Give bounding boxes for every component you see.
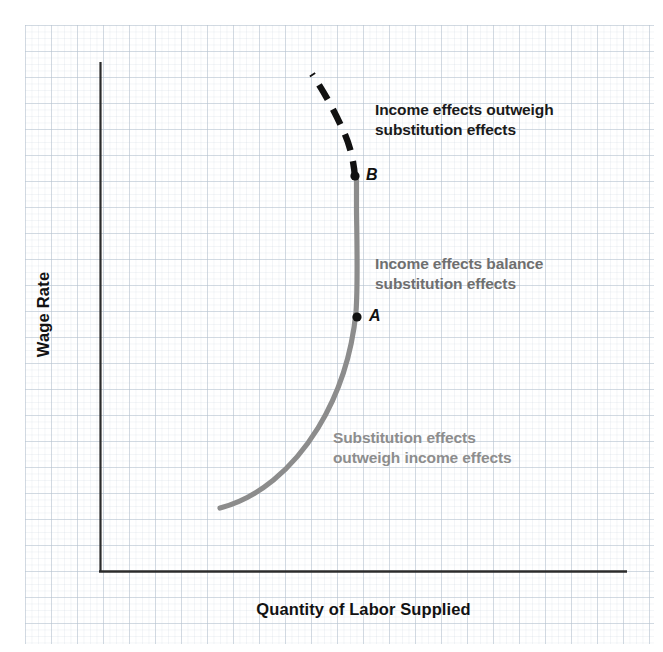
y-axis-label: Wage Rate [34, 255, 53, 375]
data-point-b-label: B [366, 166, 378, 184]
labor-supply-chart [0, 0, 663, 652]
annotation-income-effects-outweigh: Income effects outweigh substitution eff… [375, 100, 554, 139]
annotation-income-effects-balance: Income effects balance substitution effe… [375, 254, 543, 293]
annotation-substitution-effects-outweigh: Substitution effects outweigh income eff… [333, 428, 512, 467]
data-point-b-marker [350, 171, 359, 180]
data-point-a-label: A [369, 307, 381, 325]
data-point-a-marker [352, 312, 361, 321]
supply-curve-dashed-segment [312, 74, 355, 178]
x-axis-label: Quantity of Labor Supplied [100, 600, 627, 619]
